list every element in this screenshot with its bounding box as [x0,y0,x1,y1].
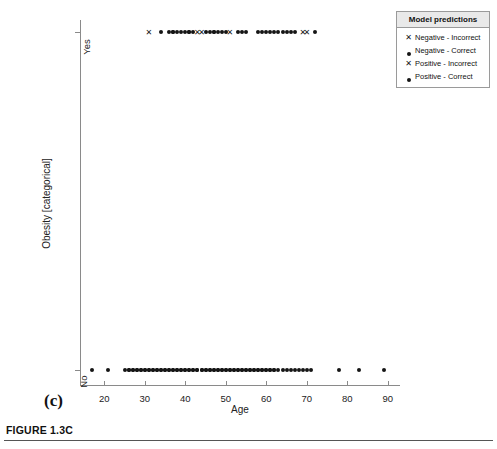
legend-item: Positive - Correct [399,70,487,83]
data-point [159,30,163,34]
figure-container: Obesity [categorical] 2030405060708090 N… [0,0,497,449]
legend-item-label: Positive - Correct [415,72,473,81]
data-point [313,30,317,34]
x-tick [307,381,308,386]
x-tick [104,381,105,386]
x-axis-line [80,385,400,386]
legend-items: ✕Negative - IncorrectNegative - Correct✕… [397,28,489,87]
x-tick-label: 90 [383,393,394,404]
x-tick [226,381,227,386]
x-tick-label: 70 [302,393,313,404]
x-axis-title: Age [80,404,400,415]
x-tick-label: 40 [180,393,191,404]
x-tick [145,381,146,386]
x-tick [388,381,389,386]
x-tick-label: 60 [261,393,272,404]
x-tick-label: 80 [342,393,353,404]
x-tick [266,381,267,386]
caption-divider [4,440,493,441]
data-point [191,30,195,34]
data-point [337,368,341,372]
figure-caption: FIGURE 1.3C [6,424,73,436]
legend-title: Model predictions [397,12,489,28]
legend-item-label: Positive - Incorrect [415,59,477,68]
y-tick [75,370,80,371]
data-point [357,368,361,372]
data-point [224,30,228,34]
x-tick [347,381,348,386]
scatter-plot: 2030405060708090 NoYes [80,20,400,386]
y-axis-line [80,20,81,386]
panel-label: (c) [44,391,63,411]
y-axis-title: Obesity [categorical] [38,20,54,386]
y-tick-label: Yes [81,39,92,55]
data-point [382,368,386,372]
data-point [309,368,313,372]
data-point [244,30,248,34]
y-axis-title-text: Obesity [categorical] [41,158,52,249]
dot-icon [402,68,415,86]
data-point [303,29,310,36]
legend-item-label: Negative - Incorrect [415,33,480,42]
data-point [90,368,94,372]
legend: Model predictions ✕Negative - IncorrectN… [396,11,490,88]
x-tick-label: 30 [140,393,151,404]
legend-item: Negative - Correct [399,44,487,57]
x-tick [185,381,186,386]
data-point [293,30,297,34]
data-point [145,29,152,36]
y-tick [75,32,80,33]
x-tick-label: 50 [221,393,232,404]
y-tick-label: No [78,376,89,388]
dot-icon [402,42,415,60]
x-tick-label: 20 [99,393,110,404]
data-point [106,368,110,372]
legend-item-label: Negative - Correct [415,46,476,55]
